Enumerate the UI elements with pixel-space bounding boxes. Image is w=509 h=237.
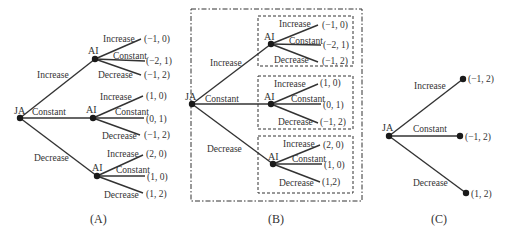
panel-caption: (C) <box>431 212 447 226</box>
panel-c: JA Increase Constant Decrease (−1, 2) (−… <box>382 74 494 226</box>
node-a-ai-2 <box>90 115 96 121</box>
root-label: JA <box>382 122 394 133</box>
action-label: Increase <box>107 149 139 159</box>
panel-a: JA AI AI AI Increase Constant Decrease I… <box>14 34 172 226</box>
game-tree-figure: JA AI AI AI Increase Constant Decrease I… <box>0 0 509 237</box>
action-label: Constant <box>113 51 147 61</box>
payoff: (−1, 0) <box>144 34 170 45</box>
action-label: Increase <box>279 19 311 29</box>
payoff: (1, 2) <box>471 189 492 200</box>
payoff: (1, 0) <box>147 172 168 183</box>
action-label: Constant <box>116 165 150 175</box>
action-label: Decrease <box>413 178 448 188</box>
payoff: (−1, 2) <box>144 70 170 81</box>
action-label: Decrease <box>279 178 314 188</box>
payoff: (−1, 2) <box>320 117 346 128</box>
node-c-root <box>386 133 392 139</box>
action-label: Decrease <box>207 144 242 154</box>
ai-label: AI <box>92 162 103 173</box>
action-label: Decrease <box>102 131 137 141</box>
node-a-ai-1 <box>92 56 98 62</box>
action-label: Decrease <box>278 117 313 127</box>
action-label: Increase <box>414 81 446 91</box>
ai-label: AI <box>264 31 275 42</box>
action-label: Decrease <box>274 55 309 65</box>
edge-a-decrease <box>20 118 97 176</box>
payoff: (0, 1) <box>323 100 344 111</box>
payoff: (2, 0) <box>146 149 167 160</box>
action-label: Increase <box>274 79 306 89</box>
panel-caption: (A) <box>90 212 107 226</box>
action-label: Increase <box>37 70 69 80</box>
panel-caption: (B) <box>268 212 284 226</box>
payoff: (2, 0) <box>323 140 344 151</box>
root-label: JA <box>14 105 26 116</box>
node-c-leaf-2 <box>457 133 463 139</box>
ai-label: AI <box>88 45 99 56</box>
payoff: (−1, 2) <box>465 132 491 143</box>
payoff: (−1, 2) <box>468 74 494 85</box>
action-label: Constant <box>289 36 323 46</box>
action-label: Constant <box>292 154 326 164</box>
action-label: Constant <box>291 94 325 104</box>
node-c-leaf-3 <box>463 190 469 196</box>
payoff: (1, 0) <box>320 78 341 89</box>
action-label: Constant <box>115 107 149 117</box>
action-label: Constant <box>32 107 66 117</box>
action-label: Decrease <box>98 70 133 80</box>
action-label: Increase <box>103 34 135 44</box>
payoff: (1,2) <box>322 177 340 188</box>
ai-label: AI <box>268 151 279 162</box>
root-label: JA <box>185 91 197 102</box>
panel-b: JA AI AI AI Increase Constant Decrease I… <box>185 9 362 226</box>
action-label: Decrease <box>34 153 69 163</box>
payoff: (−1, 0) <box>322 20 348 31</box>
payoff: (1, 0) <box>146 91 167 102</box>
action-label: Increase <box>283 139 315 149</box>
payoff: (−2, 1) <box>323 40 349 51</box>
payoff: (−1, 2) <box>144 130 170 141</box>
ai-label: AI <box>264 91 275 102</box>
action-label: Constant <box>205 94 239 104</box>
edge-b-decrease <box>192 104 273 164</box>
payoff: (1, 0) <box>324 160 345 171</box>
payoff: (−1, 2) <box>322 56 348 67</box>
action-label: Increase <box>100 92 132 102</box>
action-label: Constant <box>413 124 447 134</box>
node-c-leaf-1 <box>460 76 466 82</box>
node-a-ai-3 <box>94 173 100 179</box>
payoff: (0, 1) <box>146 114 167 125</box>
ai-label: AI <box>86 104 97 115</box>
action-label: Increase <box>210 58 242 68</box>
payoff: (1, 2) <box>146 189 167 200</box>
payoff: (−2, 1) <box>146 56 172 67</box>
action-label: Decrease <box>104 190 139 200</box>
